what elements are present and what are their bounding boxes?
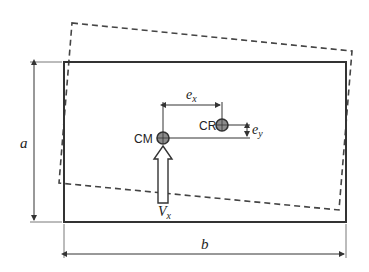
label-b: b <box>201 236 209 252</box>
eccentricity-diagram: a b ex ey CR CM Vx <box>0 0 369 272</box>
plan-outline <box>64 62 346 222</box>
center-of-rigidity: CR <box>199 119 228 133</box>
label-a: a <box>20 135 28 151</box>
center-of-mass: CM <box>134 132 169 146</box>
dimension-a: a <box>20 62 62 222</box>
label-ey: ey <box>252 122 263 139</box>
shear-force-arrow: Vx <box>154 146 172 221</box>
rotated-plan-outline <box>59 23 352 210</box>
label-cm: CM <box>134 132 153 146</box>
label-cr: CR <box>199 119 217 133</box>
label-ex: ex <box>186 87 197 104</box>
label-vx: Vx <box>158 204 172 221</box>
dimension-b: b <box>64 224 346 258</box>
